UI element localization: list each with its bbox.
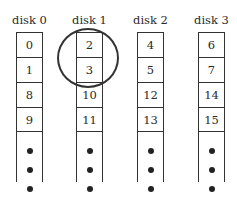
block-cell: 5 (138, 57, 163, 82)
ellipsis-dot-icon (209, 148, 215, 154)
disk-3: disk 3 6 7 14 15 (198, 0, 225, 205)
block-cell: 12 (138, 82, 163, 107)
ellipsis-dot-icon (87, 186, 93, 192)
disk-block-stack: 0 1 8 9 (16, 32, 43, 182)
block-cell: 8 (17, 82, 42, 107)
ellipsis-dot-icon (148, 167, 154, 173)
disk-label: disk 2 (125, 13, 176, 27)
disk-block-stack: 6 7 14 15 (198, 32, 225, 182)
ellipsis-dot-icon (27, 148, 33, 154)
block-cell: 15 (199, 107, 224, 132)
disk-0: disk 0 0 1 8 9 (16, 0, 43, 205)
disk-label: disk 3 (186, 13, 237, 27)
disk-2: disk 2 4 5 12 13 (137, 0, 164, 205)
disk-label: disk 1 (64, 13, 115, 27)
ellipsis-dot-icon (87, 167, 93, 173)
block-cell: 1 (17, 57, 42, 82)
ellipsis-dot-icon (209, 167, 215, 173)
block-cell: 9 (17, 107, 42, 132)
block-cell: 13 (138, 107, 163, 132)
block-cell: 7 (199, 57, 224, 82)
ellipsis-dot-icon (27, 167, 33, 173)
disk-label: disk 0 (4, 13, 55, 27)
ellipsis-dot-icon (27, 186, 33, 192)
ellipsis-dot-icon (209, 186, 215, 192)
highlight-circle (57, 28, 119, 88)
block-cell: 6 (199, 32, 224, 57)
block-cell: 0 (17, 32, 42, 57)
block-cell: 11 (77, 107, 102, 132)
block-cell: 14 (199, 82, 224, 107)
disk-block-stack: 4 5 12 13 (137, 32, 164, 182)
ellipsis-dot-icon (148, 186, 154, 192)
ellipsis-dot-icon (148, 148, 154, 154)
block-cell: 4 (138, 32, 163, 57)
ellipsis-dot-icon (87, 148, 93, 154)
